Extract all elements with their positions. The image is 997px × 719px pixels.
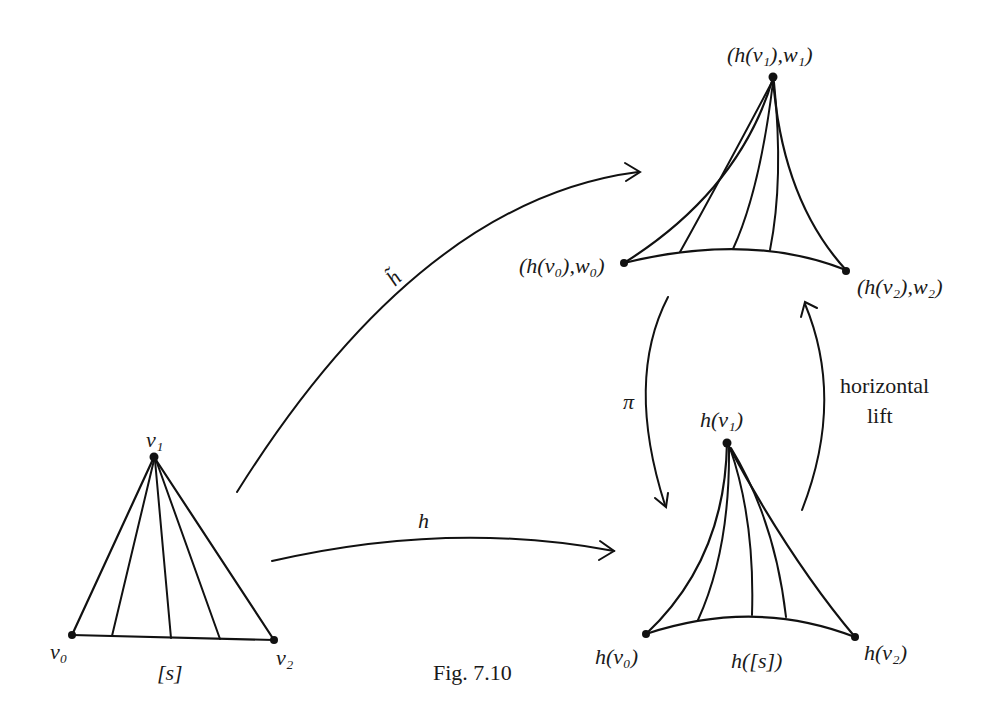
edge-v0-v1: [72, 457, 154, 635]
label-w0: (h(v₀),w₀): [519, 253, 605, 278]
arrow-h-tilde: h̃: [237, 163, 640, 492]
edge-v1-v2: [154, 457, 274, 640]
edge-h1-h2: [727, 443, 855, 637]
interior-curve: [731, 448, 786, 617]
edge-h0-h1: [646, 443, 727, 634]
interior-curve: [730, 448, 752, 615]
edge-v0-v2: [72, 635, 274, 640]
lifted-simplex: (h(v₁),w₁) (h(v₀),w₀) (h(v₂),w₂): [519, 42, 943, 299]
label-h: h: [418, 508, 429, 533]
label-h0: h(v₀): [595, 644, 638, 669]
vertex-h0-dot: [642, 630, 650, 638]
arrow-h-shaft: [272, 538, 614, 561]
arrow-pi-shaft: [646, 297, 668, 505]
arrow-lift-shaft: [802, 304, 824, 510]
edge-w1-w2: [773, 78, 846, 270]
vertex-v1-dot: [150, 453, 159, 462]
edge-w0-w1: [624, 78, 773, 263]
vertex-v2-dot: [270, 636, 278, 644]
vertex-h2-dot: [851, 633, 859, 641]
arrow-pi: π: [623, 297, 668, 507]
interior-segment: [156, 460, 220, 639]
interior-segment: [112, 460, 154, 636]
edge-w0-w2: [624, 249, 846, 270]
label-pi: π: [623, 389, 635, 414]
interior-curve: [733, 82, 773, 249]
source-simplex: v₁ v₀ v₂ [s]: [50, 427, 294, 685]
interior-segment: [155, 460, 171, 638]
label-v0: v₀: [50, 639, 67, 664]
arrow-h: h: [272, 508, 614, 561]
arrow-h-tilde-shaft: [237, 172, 638, 492]
interior-curve: [770, 82, 778, 250]
arrow-horizontal-lift: horizontal lift: [801, 302, 929, 510]
label-v1: v₁: [146, 427, 163, 452]
vertex-w0-dot: [620, 259, 628, 267]
label-lift: lift: [867, 403, 893, 428]
label-v2: v₂: [276, 645, 294, 670]
label-simplex-s: [s]: [157, 660, 183, 685]
vertex-v0-dot: [68, 631, 76, 639]
vertex-w2-dot: [842, 267, 850, 275]
label-horizontal: horizontal: [840, 373, 929, 398]
edge-h0-h2: [646, 617, 855, 637]
label-h2: h(v₂): [864, 640, 907, 665]
label-h-s: h([s]): [731, 648, 782, 673]
figure-caption: Fig. 7.10: [433, 660, 512, 685]
vertex-w1-dot: [769, 73, 778, 82]
vertex-h1-dot: [723, 439, 732, 448]
label-h1: h(v₁): [700, 407, 743, 432]
label-w1: (h(v₁),w₁): [727, 42, 813, 67]
figure-canvas: v₁ v₀ v₂ [s] (h(v₁),w₁) (h(v₀),w₀) (h(v₂…: [0, 0, 997, 719]
label-h-tilde: h̃: [381, 265, 407, 291]
image-simplex: h(v₁) h(v₀) h(v₂) h([s]): [595, 407, 907, 673]
label-w2: (h(v₂),w₂): [857, 274, 943, 299]
